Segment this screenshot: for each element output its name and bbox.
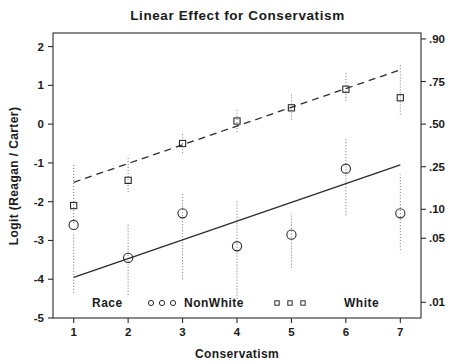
- y-tick-label: 1: [38, 79, 45, 91]
- data-series-layer: [69, 64, 405, 299]
- legend-marker-white: [288, 301, 292, 305]
- x-tick-label: 7: [397, 326, 403, 338]
- y-axis-right-ticks: .90.75.50.25.10.05.01: [421, 33, 446, 308]
- y2-tick-label: .50: [429, 118, 445, 130]
- y2-tick-label: .25: [429, 161, 446, 173]
- y-tick-label: -5: [34, 312, 45, 324]
- y-tick-label: -1: [34, 157, 45, 169]
- x-tick-label: 2: [125, 326, 131, 338]
- legend-marker-white: [275, 301, 279, 305]
- plot-frame: [53, 33, 421, 318]
- legend-marker-nonwhite: [148, 300, 153, 305]
- data-point-nonwhite: [69, 220, 78, 229]
- legend-marker-nonwhite: [159, 300, 164, 305]
- x-axis-title: Conservatism: [195, 347, 279, 361]
- y2-tick-label: .05: [429, 232, 446, 244]
- x-tick-label: 3: [179, 326, 185, 338]
- legend-label-nonwhite: NonWhite: [184, 296, 244, 310]
- chart-legend: RaceNonWhiteWhite: [92, 296, 379, 310]
- data-point-nonwhite: [341, 164, 350, 173]
- legend-group-label: Race: [92, 296, 123, 310]
- y2-tick-label: .01: [429, 296, 446, 308]
- legend-marker-nonwhite: [170, 300, 175, 305]
- y-tick-label: -3: [34, 234, 44, 246]
- legend-marker-white: [301, 301, 305, 305]
- fit-line-white: [74, 70, 401, 182]
- x-axis-ticks: 1234567: [70, 318, 403, 338]
- x-tick-label: 4: [234, 326, 241, 338]
- x-tick-label: 6: [343, 326, 349, 338]
- y-tick-label: 2: [38, 41, 44, 53]
- data-point-nonwhite: [232, 242, 241, 251]
- y2-tick-label: .75: [429, 76, 446, 88]
- y-tick-label: -4: [34, 273, 45, 285]
- y-tick-label: -2: [34, 196, 44, 208]
- y2-tick-label: .10: [429, 203, 445, 215]
- y2-tick-label: .90: [429, 33, 445, 45]
- chart-plot-area: 210-1-2-3-4-5 .90.75.50.25.10.05.01 1234…: [0, 0, 475, 364]
- x-tick-label: 5: [288, 326, 295, 338]
- y-axis-left-ticks: 210-1-2-3-4-5: [34, 41, 53, 324]
- legend-label-white: White: [344, 296, 379, 310]
- data-point-white: [234, 118, 240, 124]
- fit-line-nonwhite: [74, 165, 401, 277]
- y-axis-title: Logit (Reagan / Carter): [7, 107, 21, 246]
- x-tick-label: 1: [70, 326, 77, 338]
- y-tick-label: 0: [38, 118, 44, 130]
- chart-figure: Linear Effect for Conservatism 210-1-2-3…: [0, 0, 475, 364]
